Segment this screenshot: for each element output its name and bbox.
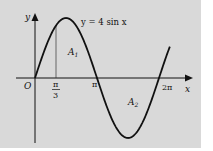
x-axis-label: x bbox=[185, 84, 190, 94]
region-a1-label: A1 bbox=[67, 47, 78, 58]
region-a2-label: A2 bbox=[127, 97, 139, 108]
function-label: y = 4 sin x bbox=[80, 17, 127, 27]
tick-label-2pi: 2π bbox=[162, 83, 172, 92]
y-axis-label: y bbox=[24, 12, 31, 22]
sine-graph: y x O π 3 π 2π y = 4 sin x A1 A2 bbox=[0, 0, 213, 151]
tick-label-pi: π bbox=[92, 80, 97, 89]
tick-label-pi-over-3-numerator: π bbox=[53, 80, 58, 89]
y-axis-arrow-icon bbox=[32, 13, 39, 21]
tick-label-pi-over-3-denominator: 3 bbox=[53, 91, 58, 100]
origin-label: O bbox=[24, 81, 32, 91]
x-axis-arrow-icon bbox=[185, 75, 193, 82]
